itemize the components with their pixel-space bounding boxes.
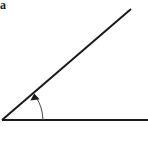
angle-diagram-canvas	[0, 0, 148, 147]
angle-diagram-figure: a	[0, 0, 148, 147]
figure-background	[0, 0, 148, 147]
corner-label: a	[0, 0, 6, 11]
